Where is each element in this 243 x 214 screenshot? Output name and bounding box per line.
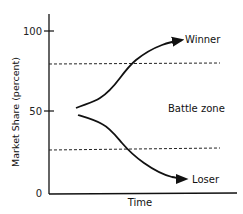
market-share-diagram: 100 50 0 Market Share (percent) Time Win… (0, 0, 243, 214)
winner-label: Winner (185, 34, 221, 45)
winner-curve (76, 40, 182, 108)
battle-zone-label: Battle zone (168, 103, 225, 114)
lower-threshold-line (49, 148, 220, 150)
upper-threshold-line (49, 63, 220, 64)
tick-label-100: 100 (23, 26, 42, 37)
tick-label-0: 0 (36, 188, 42, 199)
loser-label: Loser (192, 174, 220, 185)
x-axis (49, 193, 237, 194)
x-axis-label: Time (127, 197, 152, 208)
y-axis-label: Market Share (percent) (10, 57, 21, 167)
tick-label-50: 50 (29, 106, 42, 117)
loser-curve (78, 115, 186, 179)
